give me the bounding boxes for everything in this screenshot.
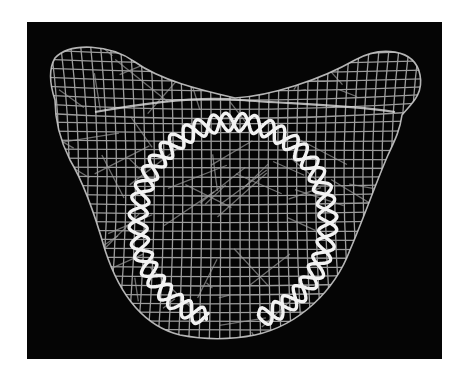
dna-helix-ring — [129, 113, 337, 324]
rim-ridge — [95, 99, 395, 112]
density-mesh — [28, 13, 430, 362]
wireframe-figure — [0, 0, 466, 387]
